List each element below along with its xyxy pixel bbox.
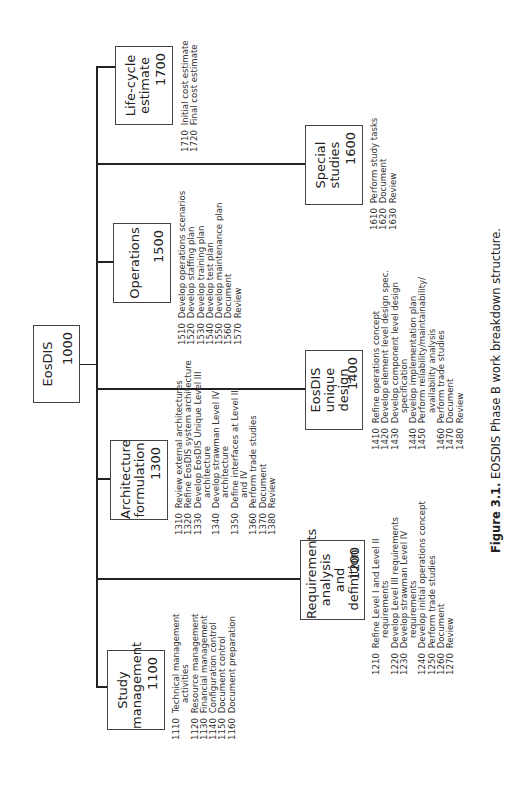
task-code: 1350: [231, 511, 240, 535]
box-1300: Architecture formulation 1300: [110, 440, 168, 520]
task-code: 1430: [391, 426, 400, 450]
box-title: Architecture formulation: [119, 441, 147, 519]
box-title: Special studies: [314, 126, 342, 204]
task-item: 1230 Develop strawman Level IVrequiremen…: [400, 501, 419, 675]
task-list-1300: 1310 Review external architectures 1320 …: [175, 360, 277, 535]
box-code: 1100: [145, 657, 160, 690]
wbs-diagram: EosDIS 1000 Study management 1100 1110 T…: [0, 0, 525, 785]
root-title: EosDIS: [41, 326, 55, 402]
task-item: 1480 Review: [456, 270, 465, 450]
task-item: 1270 Review: [446, 501, 455, 675]
task-code: 1630: [389, 206, 398, 230]
stem-1700: [96, 67, 115, 69]
task-item: 1210 Refine Level I and Level IIrequirem…: [372, 501, 391, 675]
box-code: 1600: [343, 132, 358, 165]
figure-caption: Figure 3.1. EOSDIS Phase B work breakdow…: [489, 228, 503, 553]
box-1200: Requirements analysis and definition 120…: [300, 540, 365, 620]
box-code: 1500: [151, 230, 166, 263]
task-text: Final cost estimate: [189, 44, 199, 125]
task-text: Review: [445, 618, 455, 649]
root-box-1000: EosDIS 1000: [33, 325, 80, 403]
task-list-1100: 1110 Technical managementactivities 1120…: [172, 614, 237, 741]
box-1100: Study management 1100: [107, 650, 165, 730]
stem-1300: [96, 479, 110, 481]
task-item: 1550 Develop maintenance plan: [215, 191, 224, 345]
task-item: 1330 Develop EosDIS Unique Level IIIarch…: [194, 360, 213, 535]
task-text: Document preparation: [227, 616, 237, 713]
task-item: 1720 Final cost estimate: [190, 40, 199, 152]
box-code: 1300: [148, 447, 163, 480]
task-item: 1630 Review: [389, 118, 398, 230]
task-item: 1560 Document: [224, 191, 233, 345]
box-title: Study management: [116, 651, 144, 729]
task-code: 1330: [194, 511, 203, 535]
box-title: Life-cycle estimate: [124, 47, 152, 124]
task-code: 1160: [228, 716, 237, 740]
task-code: 1270: [446, 651, 455, 675]
caption-text: EOSDIS Phase B work breakdown structure.: [489, 228, 503, 479]
task-code: 1110: [172, 716, 181, 740]
task-list-1700: 1710 Initial cost estimate 1720 Final co…: [181, 40, 200, 152]
root-stem-line: [80, 364, 97, 365]
task-text: Perform reliability/maintainability/: [417, 277, 427, 423]
box-code: 1200: [347, 547, 362, 580]
box-title: Operations: [128, 224, 142, 302]
task-item: 1380 Review: [268, 360, 277, 535]
task-item: 1110 Technical managementactivities: [172, 614, 191, 741]
stem-1500: [96, 262, 113, 264]
task-text: Review: [455, 393, 465, 424]
task-code: 1570: [234, 321, 243, 345]
task-item: 1350 Define interfaces at Level IIIand I…: [231, 360, 250, 535]
box-1700: Life-cycle estimate 1700: [115, 46, 173, 125]
task-text: Review: [233, 288, 243, 319]
task-item: 1160 Document preparation: [228, 614, 237, 741]
task-code: 1480: [456, 426, 465, 450]
task-list-1600: 1610 Perform study tasks 1620 Document 1…: [370, 118, 398, 230]
task-list-1200: 1210 Refine Level I and Level IIrequirem…: [372, 501, 456, 675]
task-code: 1210: [372, 651, 381, 675]
box-1600: Special studies 1600: [305, 125, 363, 205]
task-code: 1230: [400, 651, 409, 675]
task-code: 1340: [212, 511, 221, 535]
task-list-1500: 1510 Develop operations scenarios 1520 D…: [178, 191, 243, 345]
task-code: 1450: [418, 426, 427, 450]
lower-connector-1600: [97, 164, 305, 166]
task-item: 1430 Develop component level designspeci…: [391, 270, 410, 450]
caption-label: Figure 3.1.: [489, 483, 503, 553]
task-list-1400: 1410 Refine operations concept 1420 Deve…: [372, 270, 465, 450]
task-item: 1340 Develop strawman Level IVarchitectu…: [212, 360, 231, 535]
lower-connector-1200: [97, 579, 300, 581]
task-text: Review: [388, 173, 398, 204]
task-item: 1450 Perform reliability/maintainability…: [418, 270, 437, 450]
box-code: 1400: [345, 357, 360, 390]
box-code: 1700: [153, 53, 168, 86]
box-1500: Operations 1500: [113, 223, 171, 303]
task-code: 1380: [268, 511, 277, 535]
box-1400: EosDIS unique design 1400: [305, 350, 363, 430]
task-code: 1720: [190, 128, 199, 152]
upper-bus-line: [96, 68, 98, 688]
task-item: 1570 Review: [234, 191, 243, 345]
root-code: 1000: [60, 332, 75, 365]
task-text: Review: [267, 478, 277, 509]
